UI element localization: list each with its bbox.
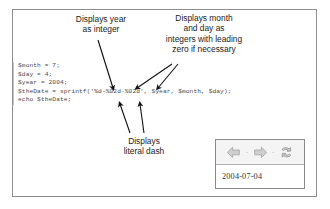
back-arrow-icon[interactable]: [226, 144, 242, 160]
browser-toolbar: · ·: [216, 140, 304, 165]
code-line: $theDate = sprintf('%d-%02d-%02d', $year…: [18, 88, 238, 97]
browser-output-area: 2004-07-04: [216, 165, 304, 188]
toolbar-separator: ·: [272, 149, 274, 156]
code-line: $day = 4;: [18, 71, 238, 80]
code-block: $month = 7; $day = 4; $year = 2004; $the…: [13, 62, 238, 105]
code-line: $month = 7;: [18, 62, 238, 71]
refresh-icon[interactable]: [278, 144, 294, 160]
annotation-literal-dash: Displays literal dash: [104, 136, 184, 157]
code-line: $year = 2004;: [18, 79, 238, 88]
toolbar-separator: ·: [246, 149, 248, 156]
code-line: echo $theDate;: [18, 96, 238, 105]
browser-output-panel: · · 2004-07-04: [215, 139, 305, 189]
output-date-text: 2004-07-04: [216, 172, 262, 181]
annotation-year: Displays year as integer: [58, 14, 144, 35]
annotation-month-day: Displays month and day as integers with …: [150, 13, 258, 55]
forward-arrow-icon[interactable]: [252, 144, 268, 160]
figure-container: Displays year as integer Displays month …: [0, 0, 330, 209]
